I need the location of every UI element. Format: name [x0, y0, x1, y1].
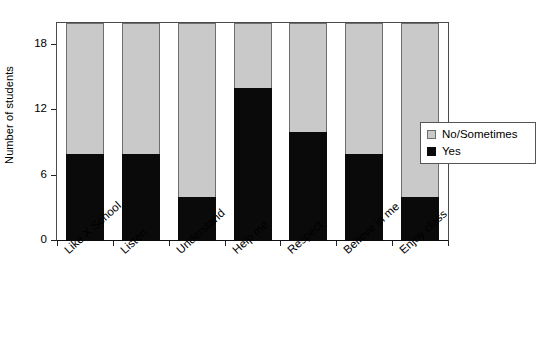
legend-label-yes: Yes: [442, 145, 461, 157]
x-axis-tick-mark: [448, 241, 449, 246]
legend-swatch-icon-no-sometimes: [427, 130, 436, 139]
x-axis-tick-mark: [57, 241, 58, 246]
bar-stack[interactable]: [289, 23, 327, 241]
bar-segment-no-sometimes[interactable]: [289, 23, 327, 132]
legend: No/Sometimes Yes: [420, 122, 536, 164]
bar-stack[interactable]: [345, 23, 383, 241]
bar-segment-no-sometimes[interactable]: [234, 23, 272, 88]
y-axis-tick-label: 18: [34, 37, 47, 49]
legend-item-yes: Yes: [427, 145, 529, 157]
bar-segment-no-sometimes[interactable]: [122, 23, 160, 154]
x-axis-tick-mark: [336, 241, 337, 246]
legend-swatch-icon-yes: [427, 147, 436, 156]
bar-segment-yes[interactable]: [234, 88, 272, 241]
x-axis-tick-mark: [392, 241, 393, 246]
y-axis-tick-label: 6: [41, 168, 47, 180]
bar-segment-no-sometimes[interactable]: [401, 23, 439, 197]
chart-container: Number of students 061218 Like X SchoolL…: [0, 0, 546, 343]
bar-stack[interactable]: [66, 23, 104, 241]
bar-segment-no-sometimes[interactable]: [345, 23, 383, 154]
legend-label-no-sometimes: No/Sometimes: [442, 128, 517, 140]
legend-item-no-sometimes: No/Sometimes: [427, 128, 529, 140]
x-axis-tick-mark: [280, 241, 281, 246]
x-axis-tick-mark: [113, 241, 114, 246]
x-axis-tick-mark: [169, 241, 170, 246]
bar-stack[interactable]: [234, 23, 272, 241]
bar-stack[interactable]: [122, 23, 160, 241]
bar-stack[interactable]: [178, 23, 216, 241]
x-axis-tick-mark: [225, 241, 226, 246]
y-axis-title: Number of students: [3, 5, 15, 225]
bar-segment-no-sometimes[interactable]: [178, 23, 216, 197]
y-axis-tick-label: 12: [34, 102, 47, 114]
y-axis-tick-label: 0: [41, 233, 47, 245]
bar-segment-no-sometimes[interactable]: [66, 23, 104, 154]
